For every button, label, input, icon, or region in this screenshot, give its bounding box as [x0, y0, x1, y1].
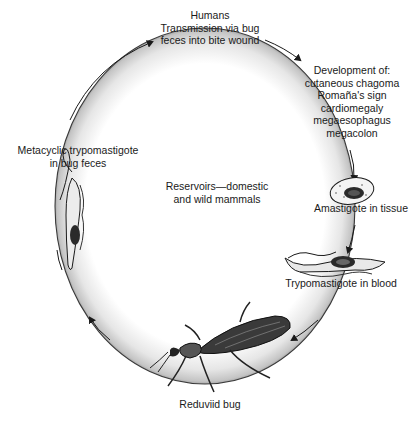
life-cycle-diagram: Humans Transmission via bug feces into b… — [0, 0, 417, 426]
metacyclic-label: Metacyclic trypomastigote in bug feces — [8, 144, 148, 169]
humans-node-label: Humans Transmission via bug feces into b… — [150, 9, 270, 47]
amastigote-label: Amastigote in tissue — [306, 202, 416, 215]
trypomastigote-label: Trypomastigote in blood — [276, 277, 406, 290]
reduviid-label: Reduviid bug — [160, 398, 260, 411]
development-node-label: Development of: cutaneous chagoma Romaña… — [292, 64, 412, 139]
reservoirs-label: Reservoirs—domestic and wild mammals — [158, 180, 276, 205]
